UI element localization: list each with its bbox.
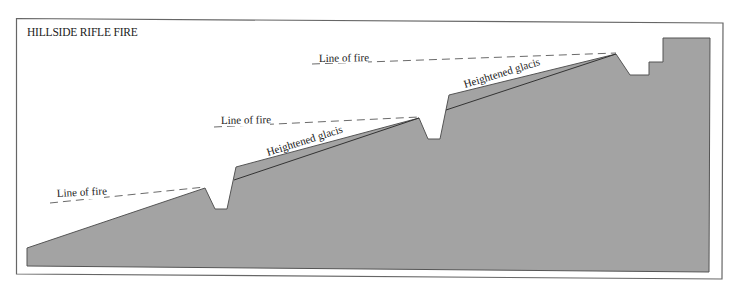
line-of-fire-label-2: Line of fire	[221, 113, 271, 126]
hillside-rifle-fire-diagram: HILLSIDE RIFLE FIRE Line of fire Line of…	[0, 0, 735, 288]
line-of-fire-label-3: Line of fire	[319, 51, 369, 64]
hillside-ground	[27, 38, 710, 272]
diagram-title: HILLSIDE RIFLE FIRE	[27, 26, 138, 38]
